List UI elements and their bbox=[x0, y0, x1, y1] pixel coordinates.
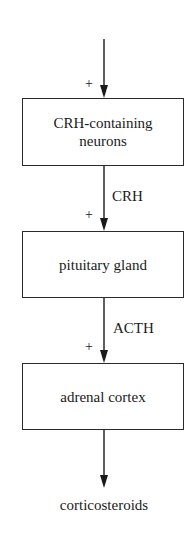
node-pituitary-label: pituitary gland bbox=[59, 256, 147, 274]
sign-pituitary-to-adrenal: + bbox=[85, 340, 93, 354]
arrowhead-icon bbox=[100, 350, 108, 363]
node-crh-neurons-line1: CRH-containing bbox=[53, 114, 152, 132]
edge-label-acth: ACTH bbox=[113, 319, 154, 337]
node-pituitary: pituitary gland bbox=[22, 231, 184, 298]
sign-input-to-crh-neurons: + bbox=[85, 77, 93, 91]
node-crh-neurons: CRH-containing neurons bbox=[22, 98, 184, 166]
node-output-label: corticosteroids bbox=[48, 496, 160, 514]
node-adrenal-label: adrenal cortex bbox=[60, 388, 145, 406]
arrowhead-icon bbox=[100, 218, 108, 231]
node-crh-neurons-line2: neurons bbox=[79, 132, 127, 150]
arrowhead-icon bbox=[100, 475, 108, 488]
node-adrenal: adrenal cortex bbox=[22, 363, 184, 430]
sign-crh-neurons-to-pituitary: + bbox=[85, 208, 93, 222]
arrowhead-icon bbox=[100, 85, 108, 98]
edge-label-crh: CRH bbox=[112, 187, 143, 205]
